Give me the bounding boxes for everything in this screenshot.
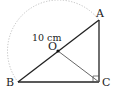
label-b: B xyxy=(6,76,14,89)
triangle-diagram: A B C O 10 cm xyxy=(0,0,116,95)
label-c: C xyxy=(102,76,110,89)
label-a: A xyxy=(95,7,105,20)
length-label: 10 cm xyxy=(32,32,61,43)
